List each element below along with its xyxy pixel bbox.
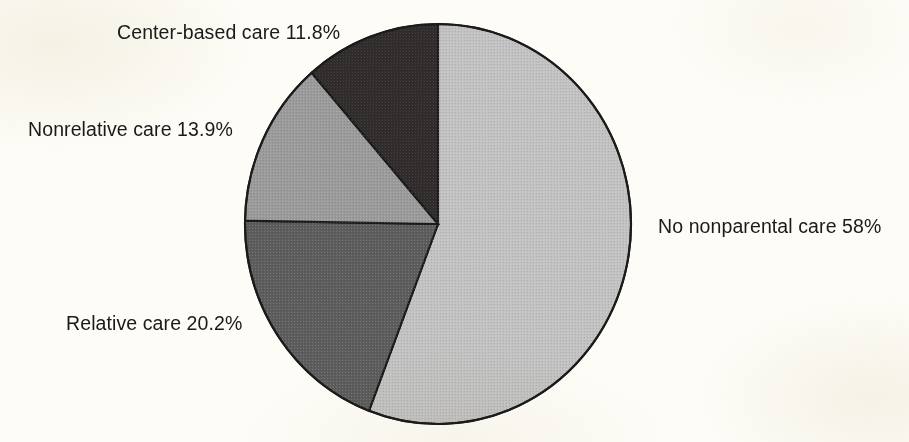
slice-label-relative-care: Relative care 20.2% bbox=[66, 312, 242, 335]
slice-label-nonrelative-care: Nonrelative care 13.9% bbox=[28, 118, 233, 141]
slice-label-no-nonparental-care: No nonparental care 58% bbox=[658, 215, 881, 238]
slice-label-center-based-care: Center-based care 11.8% bbox=[117, 21, 340, 44]
pie-texture-overlay bbox=[245, 24, 631, 424]
pie-chart-figure: Center-based care 11.8% Nonrelative care… bbox=[0, 0, 909, 442]
